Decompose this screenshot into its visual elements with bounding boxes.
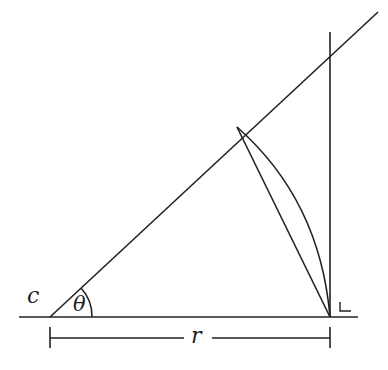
- right-angle-icon: [340, 302, 351, 311]
- diagram-canvas: c θ r: [0, 0, 388, 370]
- vertex-label-c: c: [27, 283, 39, 308]
- chord: [237, 127, 330, 317]
- geometry-figure: [0, 0, 388, 370]
- side-label-r: r: [187, 323, 206, 348]
- hypotenuse-ray: [50, 12, 378, 317]
- angle-label-theta: θ: [73, 292, 86, 316]
